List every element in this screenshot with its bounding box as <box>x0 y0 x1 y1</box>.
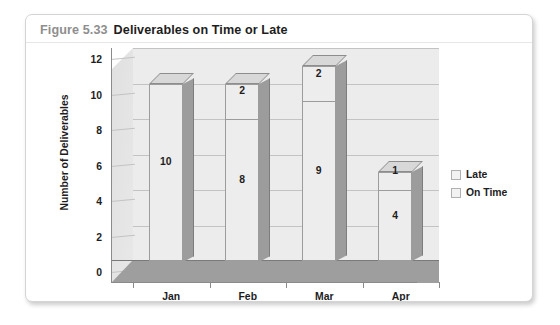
x-axis-tick-label: Apr <box>371 291 431 302</box>
y-axis-tick-label: 0 <box>76 267 102 278</box>
bar-segment[interactable] <box>225 119 259 261</box>
x-axis-tick-mark <box>133 282 134 288</box>
bar-group[interactable]: 41 <box>378 172 412 261</box>
x-axis-tick-label: Mar <box>294 291 354 302</box>
bar-group[interactable]: 10 <box>149 84 183 262</box>
chart-legend: LateOn Time <box>451 169 507 205</box>
y-axis-line <box>111 48 112 282</box>
legend-swatch-icon <box>451 188 461 198</box>
legend-label: Late <box>466 169 487 180</box>
bar-data-label: 8 <box>225 174 259 185</box>
bar-data-label: 10 <box>149 156 183 167</box>
y-axis-tick-labels: 024681012 <box>76 43 102 302</box>
legend-label: On Time <box>466 187 507 198</box>
x-axis-tick-mark <box>286 282 287 288</box>
bar-data-label: 4 <box>378 209 412 220</box>
bar-data-label: 9 <box>302 165 336 176</box>
x-axis-tick-mark <box>210 282 211 288</box>
bar-segment[interactable] <box>378 190 412 261</box>
page-title: Deliverables on Time or Late <box>114 23 288 37</box>
bar-side-face <box>259 78 270 261</box>
bar-side-face <box>336 60 347 261</box>
bar-group[interactable]: 92 <box>302 66 336 261</box>
y-axis-tick-label: 6 <box>76 160 102 171</box>
gridline <box>133 48 439 49</box>
bar-data-label: 2 <box>302 67 336 78</box>
y-axis-tick-label: 8 <box>76 125 102 136</box>
legend-item[interactable]: On Time <box>451 187 507 198</box>
x-axis-tick-label: Jan <box>141 291 201 302</box>
y-axis-tick-label: 2 <box>76 231 102 242</box>
bar-data-label: 1 <box>378 165 412 176</box>
figure-card: Figure 5.33Deliverables on Time or Late … <box>25 14 533 302</box>
bar-segment[interactable] <box>302 101 336 261</box>
y-axis-tick-label: 10 <box>76 89 102 100</box>
plot-area: 10829241 JanFebMarApr <box>111 43 439 302</box>
bar-segment[interactable] <box>149 84 183 262</box>
x-axis-line <box>111 282 417 283</box>
x-axis-tick-label: Feb <box>218 291 278 302</box>
y-axis-tick-label: 12 <box>76 54 102 65</box>
figure-number: Figure 5.33 <box>40 23 108 37</box>
bar-group[interactable]: 82 <box>225 84 259 262</box>
legend-swatch-icon <box>451 170 461 180</box>
bar-side-face <box>412 166 423 261</box>
bar-data-label: 2 <box>225 85 259 96</box>
x-axis-tick-mark <box>363 282 364 288</box>
figure-caption: Figure 5.33Deliverables on Time or Late <box>40 23 288 37</box>
chart-canvas: Number of Deliverables 024681012 1082924… <box>26 43 533 302</box>
y-axis-tick-label: 4 <box>76 196 102 207</box>
x-axis-tick-mark <box>439 282 440 288</box>
legend-item[interactable]: Late <box>451 169 507 180</box>
bar-side-face <box>183 78 194 261</box>
y-axis-title: Number of Deliverables <box>59 78 70 228</box>
